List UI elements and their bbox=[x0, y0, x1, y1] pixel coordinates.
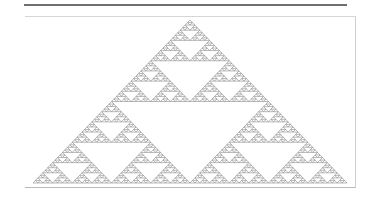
fractal-path bbox=[33, 20, 347, 183]
sierpinski-triangle-figure bbox=[0, 0, 380, 207]
sierpinski-triangles bbox=[33, 20, 347, 183]
